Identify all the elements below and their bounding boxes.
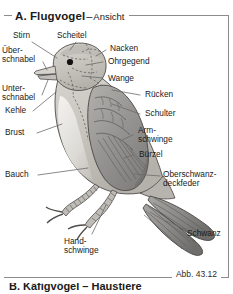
label-nacken: Nacken [110,44,138,54]
label-stirn: Stirn [13,31,30,41]
label-scheitel: Scheitel [57,31,87,41]
label-kehle: Kehle [5,106,26,116]
label-armschwinge: Arm- schwinge [138,126,173,145]
bird-leg-left-fill [62,184,99,216]
label-schwanz: Schwanz [187,229,221,239]
figure-caption: Abb. 43.12 [172,269,221,279]
leader-kehle [33,92,56,111]
leader-stirn [32,42,57,58]
bird-eye [67,59,73,65]
bird-legs-group [46,184,117,240]
label-bauch: Bauch [5,170,29,180]
label-oberschnabel: Über- schnabel [2,46,35,65]
label-oberschwanzdeckfeder: Oberschwanz- deckfeder [163,170,217,189]
bird-toe-right-a [68,225,85,229]
figure-title-main: A. Flugvogel [15,10,85,22]
figure-title: A. Flugvogel–Ansicht [12,6,129,24]
figure-page: A. Flugvogel–Ansicht [0,0,233,294]
label-brust: Brust [5,128,24,138]
bird-upper-beak [34,66,56,75]
label-ruecken: Rücken [145,90,173,100]
label-schulter: Schulter [145,109,175,119]
label-handschwinge: Hand- schwinge [64,237,99,256]
bird-toe-left-a [46,207,62,212]
figure-title-sub: Ansicht [93,11,124,22]
label-buerzel: Bürzel [139,150,163,160]
label-unterschnabel: Unter- schnabel [2,84,35,103]
next-section-heading-cropped: B. Käfigvögel – Haustiere [9,283,169,294]
label-ohrgegend: Ohrgegend [108,57,150,67]
bird-toe-left-b [47,214,63,223]
leader-unterschnabel [42,80,48,95]
label-wange: Wange [108,74,134,84]
